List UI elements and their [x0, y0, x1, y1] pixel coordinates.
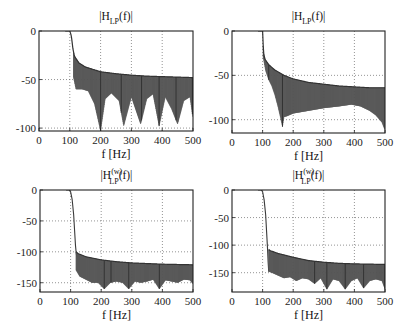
- title-main: |H: [292, 10, 303, 23]
- y-tick-label: 0: [31, 25, 37, 37]
- title-tail: (f)|: [119, 169, 133, 182]
- subplot-top-left: 01002003004005000-50-100f [Hz]|HLP(f)|: [16, 10, 202, 161]
- figure: 01002003004005000-50-100f [Hz]|HLP(f)| 0…: [0, 0, 407, 332]
- title-tail: (f)|: [311, 169, 325, 182]
- x-tick-label: 200: [92, 134, 109, 146]
- x-tick-label: 300: [316, 136, 333, 148]
- transition-curve: [258, 190, 269, 272]
- stopband-ripple: [76, 252, 193, 289]
- y-tick-label: -50: [214, 212, 229, 224]
- title-tail: (f)|: [119, 10, 133, 23]
- y-tick-label: -50: [214, 69, 229, 81]
- x-tick-label: 0: [36, 134, 42, 146]
- x-tick-label: 500: [377, 136, 394, 148]
- data-series: [66, 190, 193, 289]
- x-tick-label: 0: [229, 136, 235, 148]
- data-series: [258, 31, 385, 130]
- x-axis-label: f [Hz]: [102, 308, 131, 322]
- x-tick-label: 400: [154, 295, 171, 307]
- subplot-title: |H(w)LP(f)|: [101, 167, 133, 186]
- y-tick-label: -150: [17, 277, 38, 289]
- x-tick-label: 200: [93, 295, 110, 307]
- y-tick-label: 0: [224, 184, 230, 196]
- x-tick-label: 0: [37, 295, 43, 307]
- x-tick-label: 400: [346, 295, 363, 307]
- y-tick-label: -50: [21, 74, 36, 86]
- x-tick-label: 100: [62, 295, 79, 307]
- x-tick-label: 300: [316, 295, 333, 307]
- y-tick-label: -150: [209, 267, 230, 279]
- y-tick-label: -100: [17, 246, 38, 258]
- x-tick-label: 100: [254, 136, 271, 148]
- title-tail: (f)|: [312, 10, 326, 23]
- subplot-bottom-right: 01002003004005000-50-100-150f [Hz]|H(w)L…: [209, 167, 394, 322]
- subplot-bottom-left: 01002003004005000-50-100-150f [Hz]|H(w)L…: [17, 167, 202, 322]
- x-tick-label: 100: [62, 134, 79, 146]
- x-tick-label: 300: [124, 295, 141, 307]
- y-tick-label: 0: [32, 184, 38, 196]
- subplot-title: |HLP(f)|: [292, 10, 326, 26]
- title-main: |H: [99, 10, 110, 23]
- y-tick-label: -100: [209, 239, 230, 251]
- data-series: [258, 190, 385, 289]
- x-tick-label: 500: [185, 134, 202, 146]
- x-axis-label: f [Hz]: [102, 147, 131, 161]
- subplot-top-right: 01002003004005000-50-100f [Hz]|HLP(f)|: [209, 10, 394, 163]
- x-tick-label: 500: [185, 295, 202, 307]
- x-tick-label: 200: [285, 136, 302, 148]
- x-tick-label: 400: [346, 136, 363, 148]
- x-tick-label: 0: [229, 295, 235, 307]
- data-series: [65, 31, 193, 131]
- x-tick-label: 100: [254, 295, 271, 307]
- x-axis-label: f [Hz]: [294, 149, 323, 163]
- y-tick-label: -100: [16, 122, 37, 134]
- transition-curve: [66, 190, 77, 257]
- stopband-ripple: [74, 52, 193, 131]
- subplot-title: |HLP(f)|: [99, 10, 133, 26]
- subplot-title: |H(w)LP(f)|: [293, 167, 325, 186]
- x-tick-label: 400: [154, 134, 171, 146]
- x-tick-label: 200: [285, 295, 302, 307]
- x-tick-label: 500: [377, 295, 394, 307]
- y-tick-label: -50: [22, 215, 37, 227]
- y-tick-label: -100: [209, 114, 230, 126]
- x-tick-label: 300: [123, 134, 140, 146]
- y-tick-label: 0: [224, 25, 230, 37]
- x-axis-label: f [Hz]: [294, 308, 323, 322]
